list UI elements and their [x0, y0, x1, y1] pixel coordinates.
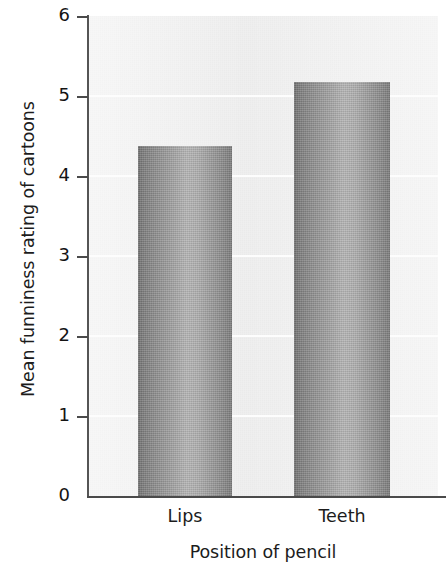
y-tick-mark-4 [77, 176, 88, 178]
y-tick-label-3: 3 [30, 246, 70, 264]
bar-lips [138, 146, 232, 497]
bar-teeth [294, 82, 390, 497]
y-tick-mark-2 [77, 336, 88, 338]
bar-chart-figure: Mean funniness rating of cartoons 6 5 4 … [0, 0, 446, 571]
y-tick-label-2: 2 [30, 326, 70, 344]
bar-texture [138, 146, 232, 497]
y-tick-mark-6 [77, 16, 88, 18]
y-tick-mark-1 [77, 416, 88, 418]
y-tick-mark-3 [77, 256, 88, 258]
bar-texture [294, 82, 390, 497]
plot-area [88, 16, 438, 497]
y-tick-label-0: 0 [30, 486, 70, 504]
y-tick-label-6: 6 [30, 6, 70, 24]
x-axis-title: Position of pencil [88, 542, 438, 562]
x-category-label-lips: Lips [98, 506, 272, 526]
y-tick-mark-5 [77, 96, 88, 98]
y-tick-label-1: 1 [30, 406, 70, 424]
y-tick-label-4: 4 [30, 166, 70, 184]
y-tick-label-5: 5 [30, 86, 70, 104]
x-axis-line [87, 496, 446, 498]
x-category-label-teeth: Teeth [255, 506, 429, 526]
